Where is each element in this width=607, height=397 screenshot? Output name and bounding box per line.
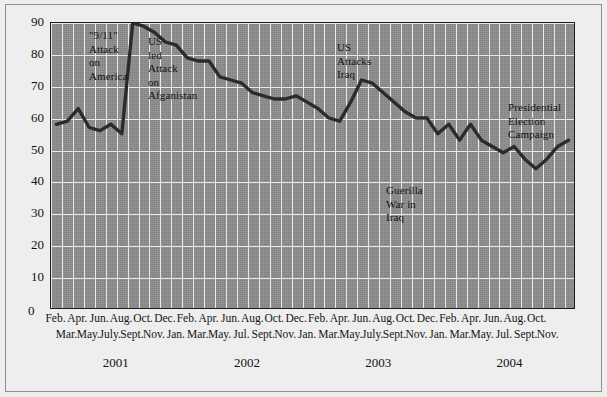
y-axis-tick-label: 10 xyxy=(0,269,44,285)
chart-annotation: US led Attack on Afganistan xyxy=(148,35,197,103)
x-axis-tick-label: May. xyxy=(77,328,100,340)
x-axis-tick-label: Mar. xyxy=(56,328,77,340)
chart-annotation: Guerilla War in Iraq xyxy=(386,184,423,225)
x-axis-tick-label: Nov. xyxy=(537,328,559,340)
x-axis-tick-label: Jan. xyxy=(429,328,447,340)
y-axis: 908070605040302010 xyxy=(0,22,44,309)
x-axis-tick-label: Sept. xyxy=(120,328,143,340)
x-axis-tick-label: Aug. xyxy=(241,312,264,324)
x-axis-tick-label: Apr. xyxy=(461,312,481,324)
approval-line xyxy=(56,23,568,169)
x-axis-tick-label: Feb. xyxy=(308,312,328,324)
x-axis-tick-label: July. xyxy=(100,328,121,340)
x-axis-tick-label: May. xyxy=(208,328,231,340)
x-axis-tick-label: May. xyxy=(339,328,362,340)
x-axis-tick-label: Jul. xyxy=(496,328,512,340)
chart-annotation: "9/11" Attack on America xyxy=(89,29,128,83)
x-axis-tick-label: Jun. xyxy=(352,312,371,324)
x-axis-tick-label: Jan. xyxy=(298,328,316,340)
x-axis-tick-label: Mar. xyxy=(187,328,208,340)
x-axis-tick-label: Apr. xyxy=(330,312,350,324)
x-axis-tick-label: Mar. xyxy=(449,328,470,340)
x-axis-tick-label: Oct. xyxy=(527,312,546,324)
x-axis-tick-label: Sept. xyxy=(514,328,537,340)
x-axis-tick-label: Feb. xyxy=(439,312,459,324)
y-axis-tick-label: 70 xyxy=(0,78,44,94)
chart-annotation: US Attacks Iraq xyxy=(337,41,371,82)
x-axis-tick-label: Jan. xyxy=(167,328,185,340)
x-axis-tick-label: Feb. xyxy=(45,312,65,324)
y-axis-zero-label: 0 xyxy=(28,303,35,319)
x-axis-tick-label: Sept. xyxy=(252,328,275,340)
y-axis-tick-label: 20 xyxy=(0,237,44,253)
x-axis-tick-label: Oct. xyxy=(264,312,283,324)
year-label: 2002 xyxy=(234,355,260,371)
x-axis-tick-label: Aug. xyxy=(504,312,527,324)
x-axis-tick-label: Mar. xyxy=(318,328,339,340)
x-axis-tick-label: Nov. xyxy=(143,328,165,340)
chart-figure: 908070605040302010 0 "9/11" Attack on Am… xyxy=(0,0,607,397)
x-axis-tick-label: Dec. xyxy=(417,312,438,324)
series-chart xyxy=(51,23,574,308)
x-axis-tick-label: Aug. xyxy=(372,312,395,324)
year-axis: 2001200220032004 xyxy=(50,355,575,375)
x-axis-tick-label: Jul. xyxy=(233,328,249,340)
x-axis-tick-label: Dec. xyxy=(285,312,306,324)
y-axis-tick-label: 80 xyxy=(0,46,44,62)
x-axis-tick-label: Apr. xyxy=(199,312,219,324)
x-axis-tick-label: Nov. xyxy=(274,328,296,340)
x-axis-tick-label: Sept. xyxy=(383,328,406,340)
plot-area: "9/11" Attack on AmericaUS led Attack on… xyxy=(50,22,575,309)
year-label: 2004 xyxy=(496,355,522,371)
x-axis-tick-label: Jun. xyxy=(221,312,240,324)
x-axis-tick-label: Oct. xyxy=(133,312,152,324)
x-axis-tick-label: Nov. xyxy=(405,328,427,340)
y-axis-tick-label: 30 xyxy=(0,205,44,221)
x-axis-tick-label: Oct. xyxy=(396,312,415,324)
x-axis-tick-label: Jun. xyxy=(484,312,503,324)
chart-annotation: Presidential Election Campaign xyxy=(508,101,561,142)
year-label: 2003 xyxy=(365,355,391,371)
x-axis-tick-label: Aug. xyxy=(110,312,133,324)
x-axis-tick-label: Feb. xyxy=(177,312,197,324)
y-axis-tick-label: 90 xyxy=(0,14,44,30)
year-label: 2001 xyxy=(103,355,129,371)
x-axis-tick-label: Dec. xyxy=(154,312,175,324)
x-axis-tick-label: Apr. xyxy=(67,312,87,324)
x-axis-tick-label: May. xyxy=(470,328,493,340)
x-axis-tick-label: July. xyxy=(362,328,383,340)
y-axis-tick-label: 60 xyxy=(0,110,44,126)
y-axis-tick-label: 40 xyxy=(0,173,44,189)
y-axis-tick-label: 50 xyxy=(0,142,44,158)
x-axis: Feb.Mar.Apr.May.Jun.July.Aug.Sept.Oct.No… xyxy=(50,312,575,348)
x-axis-tick-label: Jun. xyxy=(90,312,109,324)
